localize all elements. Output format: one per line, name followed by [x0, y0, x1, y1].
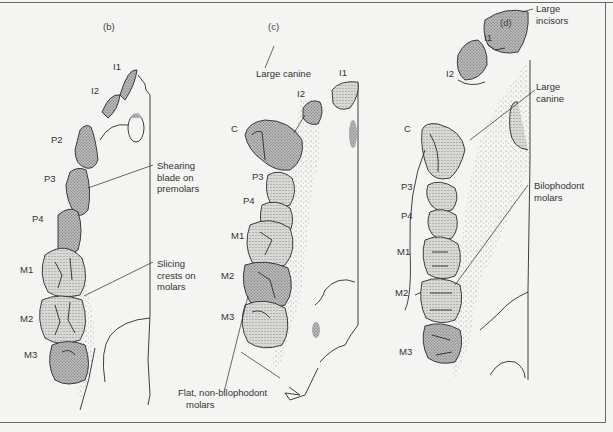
- panel-d-tooth-p3: P3: [401, 181, 413, 192]
- panel-b-tooth-p2: P2: [51, 134, 63, 145]
- panel-b-tooth-m2: M2: [20, 313, 33, 324]
- panel-c-tooth-i2: I2: [297, 88, 305, 99]
- annotation-shearing-blade: Shearing blade on premolars: [157, 160, 199, 195]
- panel-c-label: (c): [268, 21, 279, 32]
- panel-c-tooth-c: C: [231, 123, 238, 134]
- panel-b-tooth-i2: I2: [91, 85, 99, 96]
- annotation-large-canine-d: Large canine: [536, 81, 564, 104]
- panel-b-tooth-m1: M1: [20, 264, 33, 275]
- panel-d-tooth-m3: M3: [399, 346, 412, 357]
- panel-d-tooth-i2: I2: [446, 68, 454, 79]
- dentition-illustration: [0, 0, 613, 432]
- panel-d-label: (d): [500, 17, 512, 28]
- panel-d-tooth-m1: M1: [397, 246, 410, 257]
- panel-c-tooth-m1: M1: [231, 230, 244, 241]
- panel-d-tooth-c: C: [404, 123, 411, 134]
- annotation-slicing-crests: Slicing crests on molars: [157, 258, 196, 293]
- panel-c-jaw: [224, 46, 358, 400]
- annotation-large-canine-c: Large canine: [256, 68, 311, 80]
- panel-b-tooth-p4: P4: [32, 213, 44, 224]
- panel-c-tooth-m3: M3: [221, 311, 234, 322]
- panel-d-tooth-p4: P4: [401, 210, 413, 221]
- annotation-bilophodont-molars: Bilophodont molars: [534, 180, 584, 203]
- figure: (b) (c) (d) I1 I2 P2 P3 P4 M1 M2 M3 Shea…: [0, 0, 613, 432]
- panel-c-tooth-m2: M2: [221, 270, 234, 281]
- panel-d-tooth-m2: M2: [395, 287, 408, 298]
- panel-c-tooth-i1: I1: [339, 67, 347, 78]
- annotation-large-incisors: Large incisors: [536, 3, 568, 26]
- panel-b-tooth-p3: P3: [44, 173, 56, 184]
- panel-d-jaw: [405, 9, 535, 380]
- panel-c-tooth-p3: P3: [252, 171, 264, 182]
- panel-b-tooth-m3: M3: [24, 349, 37, 360]
- panel-b-tooth-i1: I1: [113, 61, 121, 72]
- panel-b-label: (b): [103, 21, 115, 32]
- panel-d-tooth-i1: I1: [484, 32, 492, 43]
- annotation-flat-molars: Flat, non-bilophodont molars: [178, 387, 267, 410]
- panel-c-tooth-p4: P4: [243, 195, 255, 206]
- panel-b-jaw: [40, 70, 153, 410]
